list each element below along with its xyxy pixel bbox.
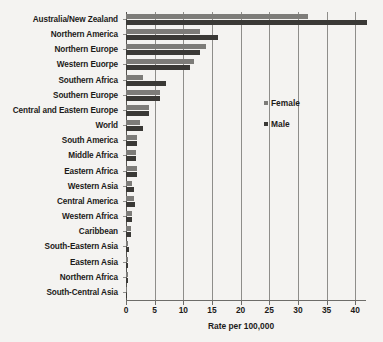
category-label: Western Euorpe [0,57,122,72]
bar-row [126,179,356,194]
bar-chart: Australia/New ZealandNorthern AmericaNor… [0,0,383,342]
bar-male [126,35,218,40]
category-label: Central America [0,194,122,209]
x-tick-label: 35 [322,305,331,315]
category-label: South-Central Asia [0,285,122,300]
category-label: Eastern Asia [0,255,122,270]
legend-label: Male [271,119,290,129]
bar-male [126,141,137,146]
bar-row [126,27,356,42]
bar-row [126,224,356,239]
legend-label: Female [271,98,300,108]
bar-male [126,20,367,25]
category-label: Northern Europe [0,42,122,57]
category-label: Australia/New Zealand [0,12,122,27]
category-label: Middle Africa [0,148,122,163]
bar-female [126,196,134,201]
bar-female [126,287,127,292]
legend-item-female: Female [264,96,300,110]
x-tick-label: 0 [124,305,129,315]
bar-male [126,156,136,161]
category-label: Caribbean [0,224,122,239]
bar-row [126,255,356,270]
bar-female [126,29,200,34]
x-tick-label: 30 [293,305,302,315]
bar-male [126,278,128,283]
legend-swatch-icon [264,101,268,105]
category-axis-labels: Australia/New ZealandNorthern AmericaNor… [0,12,122,300]
bar-rows [126,12,356,300]
chart-legend: FemaleMale [264,96,300,138]
bar-male [126,81,166,86]
bar-female [126,44,206,49]
bar-row [126,209,356,224]
bar-female [126,135,137,140]
bar-male [126,50,200,55]
legend-item-male: Male [264,117,300,131]
category-label: South-Eastern Asia [0,239,122,254]
bar-female [126,150,136,155]
bar-male [126,96,160,101]
x-tick-label: 20 [236,305,245,315]
x-tick-label: 10 [179,305,188,315]
category-label: Southern Africa [0,73,122,88]
bar-female [126,59,194,64]
bar-female [126,90,160,95]
category-label: Eastern Africa [0,164,122,179]
x-tick-label: 5 [152,305,157,315]
bar-male [126,126,143,131]
x-axis-title: Rate per 100,000 [126,321,356,331]
bar-male [126,65,190,70]
legend-swatch-icon [264,122,268,126]
bar-male [126,247,129,252]
bar-female [126,272,128,277]
bar-row [126,103,356,118]
bar-row [126,164,356,179]
category-label: Western Africa [0,209,122,224]
bar-row [126,42,356,57]
bar-female [126,14,308,19]
bar-row [126,285,356,300]
bar-female [126,241,128,246]
bar-male [126,202,135,207]
bar-row [126,12,356,27]
bar-male [126,263,128,268]
bar-row [126,73,356,88]
category-label: Southern Europe [0,88,122,103]
x-axis-line [126,300,366,301]
x-tick-label: 15 [207,305,216,315]
category-label: Western Asia [0,179,122,194]
bar-male [126,217,132,222]
bar-male [126,293,127,298]
bar-female [126,120,140,125]
bar-row [126,270,356,285]
plot-area [126,12,356,300]
bar-row [126,239,356,254]
bar-row [126,133,356,148]
bar-female [126,226,131,231]
category-label: Northern Africa [0,270,122,285]
bar-female [126,211,132,216]
bar-row [126,88,356,103]
category-label: South America [0,133,122,148]
bar-male [126,232,131,237]
x-tick-label: 40 [351,305,360,315]
bar-female [126,75,143,80]
category-label: Central and Eastern Europe [0,103,122,118]
bar-row [126,148,356,163]
bar-male [126,187,134,192]
category-label: World [0,118,122,133]
bar-female [126,181,132,186]
bar-female [126,166,137,171]
bar-row [126,57,356,72]
bar-female [126,257,128,262]
x-tick-label: 25 [265,305,274,315]
bar-row [126,194,356,209]
bar-row [126,118,356,133]
bar-male [126,111,149,116]
category-label: Northern America [0,27,122,42]
bar-female [126,105,149,110]
bar-male [126,172,137,177]
